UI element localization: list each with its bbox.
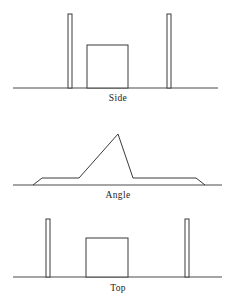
top-center-block xyxy=(86,238,128,277)
side-center-block xyxy=(87,45,128,88)
angle-profile xyxy=(33,134,205,185)
side-left-post xyxy=(68,14,72,88)
caption-angle: Angle xyxy=(0,191,236,201)
top-left-post xyxy=(46,219,50,277)
figure-sheet: Side Angle Top xyxy=(0,0,236,308)
caption-side: Side xyxy=(0,94,236,104)
caption-top: Top xyxy=(0,284,236,294)
side-right-post xyxy=(167,14,171,88)
top-right-post xyxy=(185,219,189,277)
